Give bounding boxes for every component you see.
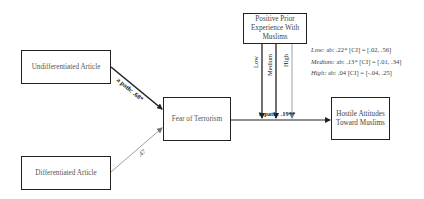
conditional-effects: Low: ab: .22* [CI] = [.02, .56] Medium: … [311, 44, 402, 79]
high-level-label: High [282, 54, 289, 67]
b-path-label: b path: .19** [259, 110, 295, 117]
effect-medium: Medium: ab: .13* [CI] = [.01, .34] [311, 56, 402, 68]
hostile-attitudes-node: Hostile Attitudes Toward Muslims [331, 97, 390, 140]
fear-of-terrorism-node: Fear of Terrorism [163, 97, 231, 141]
a-path-arrow [111, 67, 162, 109]
effect-low: Low: ab: .22* [CI] = [.02, .56] [311, 44, 402, 56]
differentiated-article-node: Differentiated Article [21, 156, 111, 190]
fear-of-terrorism-label: Fear of Terrorism [172, 115, 222, 124]
differentiated-article-label: Differentiated Article [35, 169, 97, 178]
hostile-attitudes-label: Hostile Attitudes Toward Muslims [335, 110, 386, 128]
effect-high: High: ab: .04 [CI] = [-.04, .25] [311, 67, 402, 79]
differentiated-path-arrow [111, 128, 162, 172]
moderator-node: Positive Prior Experience With Muslims [243, 13, 307, 44]
undifferentiated-article-node: Undifferentiated Article [21, 50, 111, 84]
moderator-label: Positive Prior Experience With Muslims [250, 15, 300, 42]
low-level-label: Low [252, 56, 259, 68]
medium-level-label: Medium [266, 54, 273, 76]
undifferentiated-article-label: Undifferentiated Article [32, 63, 101, 72]
